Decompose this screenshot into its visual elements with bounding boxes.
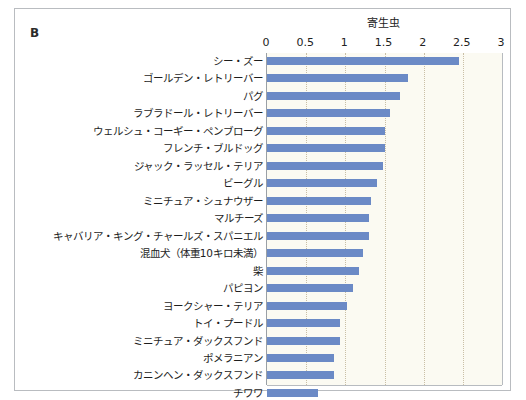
x-tick-label: 3 — [498, 36, 505, 49]
bar-track — [267, 88, 502, 105]
bar-row: パピヨン — [0, 280, 526, 297]
category-label: 柴 — [253, 263, 263, 280]
bar-row: キャバリア・キング・チャールズ・スパニエル — [0, 228, 526, 245]
bar — [267, 337, 340, 345]
bar-track — [267, 53, 502, 70]
category-label: カニンヘン・ダックスフンド — [133, 367, 263, 384]
category-label: ビーグル — [223, 175, 263, 192]
bar — [267, 127, 385, 135]
bar-row: ラブラドール・レトリーバー — [0, 105, 526, 122]
category-label: トイ・プードル — [193, 315, 263, 332]
category-label: シー・ズー — [213, 53, 263, 70]
bar-row: ウェルシュ・コーギー・ペンブローグ — [0, 123, 526, 140]
bar — [267, 302, 347, 310]
bar — [267, 214, 369, 222]
bar — [267, 197, 371, 205]
bar — [267, 57, 459, 65]
bar — [267, 371, 334, 379]
bar-row: ジャック・ラッセル・テリア — [0, 158, 526, 175]
bar-row: パグ — [0, 88, 526, 105]
x-tick-label: 2.5 — [453, 36, 471, 49]
category-label: ミニチュア・シュナウザー — [143, 193, 263, 210]
bar — [267, 319, 340, 327]
bar-track — [267, 210, 502, 227]
bar-track — [267, 385, 502, 400]
bar-row: ゴールデン・レトリーバー — [0, 70, 526, 87]
x-axis-tick-labels: 00.511.522.53 — [0, 36, 526, 52]
bar — [267, 162, 383, 170]
bar-track — [267, 140, 502, 157]
bar-track — [267, 175, 502, 192]
bar-row: ヨークシャー・テリア — [0, 298, 526, 315]
bar — [267, 232, 369, 240]
category-label: マルチーズ — [214, 210, 263, 227]
bar-row: チワワ — [0, 385, 526, 400]
bar-track — [267, 298, 502, 315]
bar — [267, 92, 400, 100]
category-label: フレンチ・ブルドッグ — [163, 140, 263, 157]
bar-row: ミニチュア・シュナウザー — [0, 193, 526, 210]
category-label: ヨークシャー・テリア — [163, 298, 263, 315]
x-tick-label: 1.5 — [375, 36, 393, 49]
bar — [267, 249, 363, 257]
category-label: パピヨン — [223, 280, 263, 297]
bar — [267, 109, 390, 117]
figure-container: B 寄生虫 00.511.522.53 シー・ズーゴールデン・レトリーバーパグラ… — [0, 0, 526, 400]
bar — [267, 389, 318, 397]
bar-row: ポメラニアン — [0, 350, 526, 367]
bar — [267, 74, 408, 82]
bar-row: ビーグル — [0, 175, 526, 192]
x-tick-label: 0.5 — [296, 36, 314, 49]
bar-track — [267, 315, 502, 332]
category-label: パグ — [243, 88, 263, 105]
bar-row: マルチーズ — [0, 210, 526, 227]
bar-track — [267, 280, 502, 297]
category-label: チワワ — [233, 385, 263, 400]
bar-row: 混血犬（体重10キロ未満） — [0, 245, 526, 262]
bar-track — [267, 158, 502, 175]
chart-title: 寄生虫 — [266, 14, 501, 30]
x-tick-label: 0 — [263, 36, 270, 49]
bar-row: ミニチュア・ダックスフンド — [0, 333, 526, 350]
bar-track — [267, 105, 502, 122]
bar — [267, 284, 353, 292]
category-label: ゴールデン・レトリーバー — [143, 70, 263, 87]
category-label: ポメラニアン — [203, 350, 263, 367]
x-tick-label: 2 — [419, 36, 426, 49]
bar-track — [267, 228, 502, 245]
bar-row: カニンヘン・ダックスフンド — [0, 367, 526, 384]
bar — [267, 179, 377, 187]
bar-row: シー・ズー — [0, 53, 526, 70]
bar — [267, 144, 385, 152]
bar-row: 柴 — [0, 263, 526, 280]
bar-track — [267, 350, 502, 367]
category-label: ミニチュア・ダックスフンド — [133, 333, 263, 350]
category-label: ウェルシュ・コーギー・ペンブローグ — [93, 123, 263, 140]
category-label: 混血犬（体重10キロ未満） — [140, 245, 263, 262]
bar-track — [267, 263, 502, 280]
category-label: ラブラドール・レトリーバー — [133, 105, 263, 122]
bar — [267, 354, 334, 362]
bar-row: トイ・プードル — [0, 315, 526, 332]
bar-track — [267, 70, 502, 87]
bar-track — [267, 245, 502, 262]
x-tick-label: 1 — [341, 36, 348, 49]
bar-row: フレンチ・ブルドッグ — [0, 140, 526, 157]
bar-track — [267, 193, 502, 210]
category-label: ジャック・ラッセル・テリア — [134, 158, 263, 175]
bar-track — [267, 367, 502, 384]
category-label: キャバリア・キング・チャールズ・スパニエル — [53, 228, 263, 245]
bar — [267, 267, 359, 275]
bar-rows: シー・ズーゴールデン・レトリーバーパグラブラドール・レトリーバーウェルシュ・コー… — [0, 53, 526, 385]
bar-track — [267, 333, 502, 350]
bar-track — [267, 123, 502, 140]
